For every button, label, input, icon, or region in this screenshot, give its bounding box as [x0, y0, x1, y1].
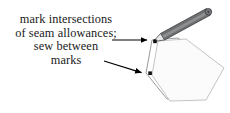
- intersection-mark-top: [153, 40, 157, 44]
- caption-line-4: marks: [4, 54, 128, 68]
- caption-line-3: sew between: [4, 40, 128, 54]
- intersection-mark-left: [148, 71, 152, 75]
- caption-line-1: mark intersections: [4, 13, 128, 27]
- caption-text: mark intersections of seam allowances; s…: [4, 13, 128, 67]
- pencil: [154, 9, 212, 42]
- caption-line-2: of seam allowances;: [4, 27, 128, 41]
